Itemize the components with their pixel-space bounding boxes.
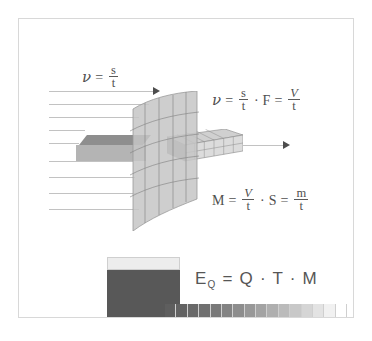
- gradient-cell: [233, 304, 244, 317]
- denominator: t: [288, 99, 300, 112]
- M-symbol: M: [212, 193, 224, 208]
- denominator: t: [239, 99, 248, 112]
- equation-velocity-simple: ν = s t: [82, 66, 120, 90]
- gradient-cell: [290, 304, 301, 317]
- equals-sign-2: =: [274, 93, 282, 108]
- energy-block-cap: [107, 257, 180, 270]
- E-symbol: E: [195, 269, 208, 288]
- term-T: T: [272, 269, 283, 288]
- gradient-cell: [256, 304, 267, 317]
- nu-symbol: ν: [82, 68, 91, 86]
- gradient-cell: [302, 304, 313, 317]
- figure-frame: ν = s t ν = s t · F = V t M = V t · S = …: [18, 18, 354, 318]
- term-M: M: [302, 269, 317, 288]
- gradient-cell: [165, 304, 176, 317]
- flow-line: [49, 161, 133, 162]
- gradient-cell: [279, 304, 290, 317]
- arrow-right-icon: [283, 141, 290, 149]
- cross-section-plane: [125, 91, 205, 231]
- term-Q: Q: [240, 269, 254, 288]
- gradient-cell: [199, 304, 210, 317]
- equation-mass-flow: M = V t · S = m t: [212, 189, 310, 213]
- energy-gradient-bar: [165, 304, 347, 317]
- equation-flow-rate: ν = s t · F = V t: [212, 89, 302, 113]
- equation-heat-energy: EQ = Q · T · M: [195, 269, 318, 290]
- gradient-cell: [176, 304, 187, 317]
- dot-operator-1: ·: [260, 269, 267, 288]
- gradient-cell: [336, 304, 347, 317]
- outlet-flow-line: [243, 145, 285, 146]
- flow-line: [49, 130, 85, 131]
- flow-line: [49, 177, 135, 178]
- denominator: t: [294, 199, 308, 212]
- gradient-cell: [245, 304, 256, 317]
- fraction-m-over-t: m t: [294, 188, 308, 212]
- gradient-cell: [324, 304, 335, 317]
- factor-S: S: [269, 193, 277, 208]
- flow-line: [49, 193, 137, 194]
- dot-operator: ·: [254, 93, 259, 108]
- gradient-cell: [267, 304, 278, 317]
- flow-line: [49, 143, 79, 144]
- dot-operator: ·: [260, 193, 265, 208]
- subscript-Q: Q: [208, 279, 217, 290]
- equals-sign: =: [228, 193, 236, 208]
- fraction-V-over-t: V t: [242, 188, 254, 212]
- equals-sign-2: =: [280, 193, 288, 208]
- numerator: s: [109, 65, 118, 76]
- equals-sign: =: [222, 269, 233, 288]
- nu-symbol: ν: [212, 91, 221, 109]
- numerator: V: [242, 188, 254, 199]
- gradient-cell: [222, 304, 233, 317]
- factor-F: F: [263, 93, 271, 108]
- denominator: t: [242, 199, 254, 212]
- fraction-s-over-t: s t: [239, 88, 248, 112]
- gradient-cell: [211, 304, 222, 317]
- denominator: t: [109, 76, 118, 89]
- dot-operator-2: ·: [290, 269, 297, 288]
- gradient-cell: [188, 304, 199, 317]
- equals-sign: =: [95, 70, 103, 85]
- numerator: s: [239, 88, 248, 99]
- numerator: V: [288, 88, 300, 99]
- gradient-cell: [313, 304, 324, 317]
- fraction-V-over-t: V t: [288, 88, 300, 112]
- fraction-s-over-t: s t: [109, 65, 118, 89]
- equals-sign: =: [225, 93, 233, 108]
- numerator: m: [294, 188, 308, 199]
